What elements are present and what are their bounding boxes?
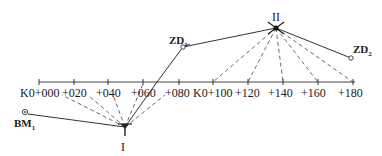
traverse-lines (28, 28, 351, 127)
line-zd1-to-II (183, 28, 276, 47)
station-label: +060 (131, 86, 156, 100)
line-bm1-to-I (28, 114, 125, 127)
station-labels: K0+000 +020 +040 +060 +080 K0+100 +120 +… (20, 86, 363, 100)
line-I-to-zd1-upper (157, 47, 183, 82)
line-II-to-zd2 (276, 28, 351, 58)
station-label: +180 (338, 86, 363, 100)
zd2-label: ZD2 (353, 43, 372, 58)
instrument-station-I-marker (118, 124, 132, 136)
bm1-label: BM1 (14, 117, 36, 132)
station-label: +020 (62, 86, 87, 100)
station-label: +120 (235, 86, 260, 100)
station-label: +080 (165, 86, 190, 100)
station-label: +160 (301, 86, 326, 100)
station-label: +040 (96, 86, 121, 100)
zd2-point-icon (349, 56, 353, 60)
station-label: K0+100 (193, 86, 232, 100)
station-label: K0+000 (20, 86, 59, 100)
zd1-label: ZD1 (169, 34, 188, 49)
station-label: +140 (268, 86, 293, 100)
station-I-label: I (121, 140, 125, 154)
traverse-diagram: II I ZD1 ZD2 BM1 K0+000 +020 +040 +060 +… (0, 0, 382, 156)
bm1-benchmark-icon (22, 109, 27, 114)
station-II-label: II (272, 10, 280, 24)
